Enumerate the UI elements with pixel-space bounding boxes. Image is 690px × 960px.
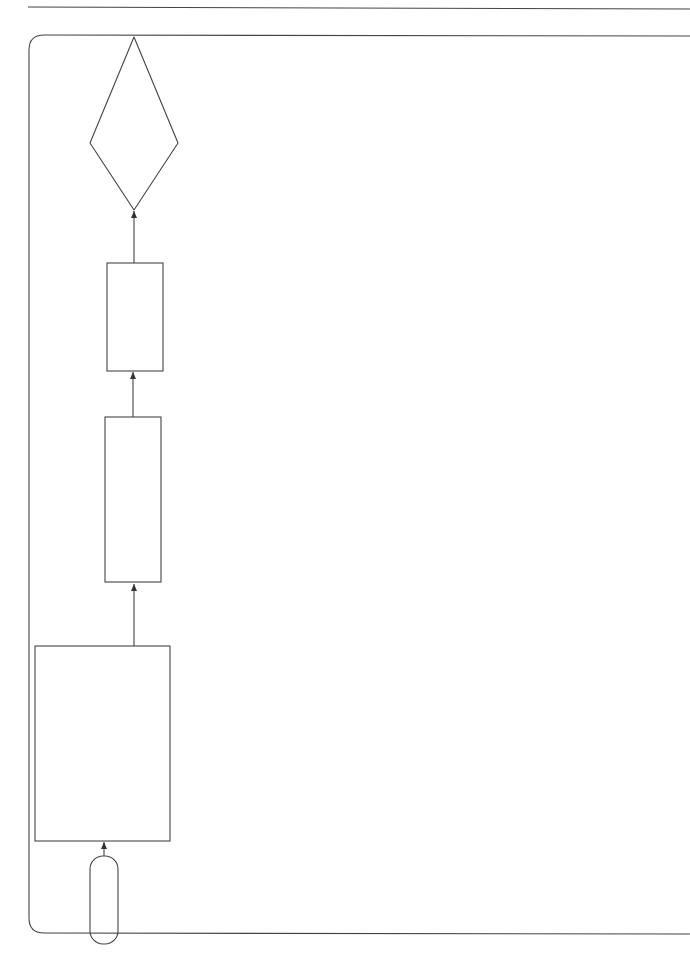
flowchart-portrait [0,0,690,960]
